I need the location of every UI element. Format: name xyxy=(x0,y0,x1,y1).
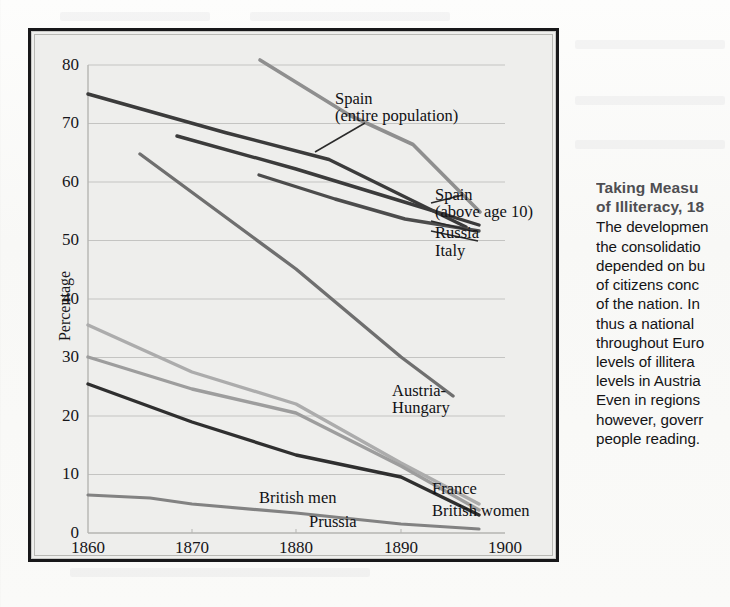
sidebar-body-line: the consolidatio xyxy=(596,237,730,256)
sidebar-body-line: thus a national xyxy=(596,314,730,333)
ghost-text xyxy=(60,12,210,21)
label-russia: Russia xyxy=(435,225,479,242)
sidebar-body-line: levels of illitera xyxy=(596,352,730,371)
sidebar-body-line: Even in regions xyxy=(596,390,730,409)
label-italy: Italy xyxy=(435,243,465,260)
label-austria-hungary: Austria- Hungary xyxy=(392,383,450,417)
sidebar-title-line1: Taking Measu xyxy=(596,178,730,197)
leader-spain-entire xyxy=(315,123,365,152)
label-british-women: British women xyxy=(432,503,530,520)
ytick-20: 20 xyxy=(33,406,79,426)
label-austria-hungary-line2: Hungary xyxy=(392,400,450,417)
sidebar-title: Taking Measu of Illiteracy, 18 xyxy=(596,178,730,216)
sidebar-body-line: however, goverr xyxy=(596,410,730,429)
series-line-austria-hungary xyxy=(140,154,453,396)
label-spain-above: Spain (above age 10) xyxy=(435,187,533,221)
label-prussia: Prussia xyxy=(309,514,357,531)
sidebar-body-line: people reading. xyxy=(596,429,730,448)
xtick-1880: 1880 xyxy=(263,538,329,558)
y-axis-label: Percentage xyxy=(56,246,74,366)
label-france: France xyxy=(432,481,477,498)
label-spain-above-line2: (above age 10) xyxy=(435,204,533,221)
sidebar-title-line2: of Illiteracy, 18 xyxy=(596,197,730,216)
label-spain-entire: Spain (entire population) xyxy=(335,91,458,125)
sidebar-body-line: depended on bu xyxy=(596,256,730,275)
ytick-80: 80 xyxy=(33,55,79,75)
ghost-text xyxy=(70,568,370,577)
ghost-text xyxy=(575,40,725,49)
ghost-text xyxy=(575,140,725,149)
ytick-60: 60 xyxy=(33,172,79,192)
label-british-men: British men xyxy=(259,490,336,507)
sidebar-body-line: throughout Euro xyxy=(596,333,730,352)
xtick-1900: 1900 xyxy=(472,538,538,558)
sidebar-body: The developmen the consolidatio depended… xyxy=(596,217,730,448)
sidebar-text-column: Taking Measu of Illiteracy, 18 The devel… xyxy=(596,178,730,448)
xtick-1890: 1890 xyxy=(368,538,434,558)
xtick-1870: 1870 xyxy=(159,538,225,558)
chart-frame: 80 70 60 50 40 30 20 10 0 1860 1870 1880… xyxy=(34,34,553,556)
sidebar-body-line: of citizens conc xyxy=(596,275,730,294)
ytick-10: 10 xyxy=(33,464,79,484)
sidebar-body-line: levels in Austria xyxy=(596,371,730,390)
chart-figure: 80 70 60 50 40 30 20 10 0 1860 1870 1880… xyxy=(28,28,559,562)
ghost-text xyxy=(575,96,725,105)
sidebar-body-line: of the nation. In xyxy=(596,294,730,313)
sidebar-body-line: The developmen xyxy=(596,217,730,236)
series-line-russia xyxy=(177,136,479,225)
xtick-1860: 1860 xyxy=(55,538,121,558)
ghost-text xyxy=(250,12,450,21)
label-spain-entire-line2: (entire population) xyxy=(335,108,458,125)
ytick-70: 70 xyxy=(33,113,79,133)
